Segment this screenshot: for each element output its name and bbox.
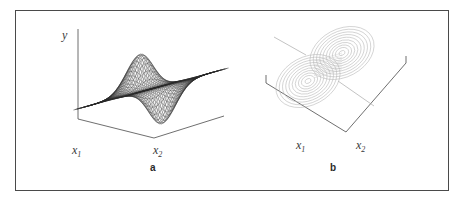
surface-wireframe-mesh [74,54,229,124]
panel-letter-b: b [330,163,336,173]
axis-lines-panel-a [78,29,224,138]
axis-label-y: y [62,29,67,41]
x1-axis-line [78,119,154,138]
contour-rings-group [267,16,384,118]
axis-label-x2: x2 [356,139,365,154]
contour-level-line [288,63,329,100]
figure-frame: y x1 x2 a [15,10,449,191]
contour-level-line [330,42,355,65]
contour-plot-svg [246,11,450,192]
axis-label-x2: x2 [153,144,162,159]
contour-extremum-marker [304,78,312,85]
contour-level-line [296,70,321,93]
axis-label-x1: x1 [72,144,81,159]
surface-plot-svg [16,11,246,192]
panel-letter-a: a [150,163,156,173]
contour-level-line [279,55,336,107]
figure-root: y x1 x2 a [0,0,468,208]
axis-label-x1: x1 [296,139,305,154]
panel-a-surface-plot: y x1 x2 a [16,11,246,192]
leader-line-lower [338,81,374,106]
x2-axis-line [154,116,224,138]
contour-level-line [267,44,350,118]
panel-b-contour-plot: x1 x2 b [246,11,450,192]
leader-line-upper [274,37,306,55]
contour-level-line [292,66,325,96]
